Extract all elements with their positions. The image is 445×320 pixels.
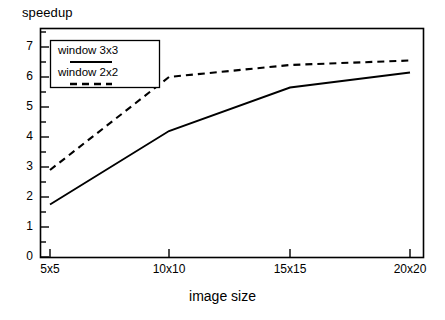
series-line-window-3x3: [50, 73, 410, 205]
x-axis-ticks: [50, 249, 410, 257]
x-axis-title: image size: [0, 288, 445, 304]
y-tick-label: 3: [13, 159, 33, 173]
y-tick-label: 2: [13, 189, 33, 203]
y-tick-label: 5: [13, 99, 33, 113]
y-tick-label: 0: [13, 249, 33, 263]
x-tick-label: 5x5: [20, 262, 80, 276]
y-tick-label: 1: [13, 219, 33, 233]
x-tick-label: 20x20: [380, 262, 440, 276]
legend-item-label: window 3x3: [58, 44, 118, 56]
y-axis-ticks: [41, 32, 49, 257]
x-tick-label: 10x10: [139, 262, 199, 276]
legend-item-label: window 2x2: [58, 66, 118, 78]
y-tick-label: 4: [13, 129, 33, 143]
chart-figure: speedup 01234567 5x510x1015x1520x20 wind…: [0, 0, 445, 320]
y-tick-label: 7: [13, 39, 33, 53]
x-tick-label: 15x15: [260, 262, 320, 276]
y-tick-label: 6: [13, 69, 33, 83]
